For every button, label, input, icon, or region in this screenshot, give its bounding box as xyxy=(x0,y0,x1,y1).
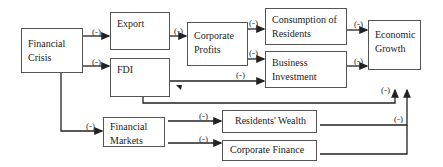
node-financial-crisis: Financial Crisis xyxy=(21,28,83,73)
edge-label-export-profits: (-) xyxy=(174,26,183,36)
edge-label-fdi-investment: (-) xyxy=(236,70,245,80)
node-financial-markets: Financial Markets xyxy=(103,117,165,147)
node-label: Corporate Profits xyxy=(194,30,234,55)
node-corporate-profits: Corporate Profits xyxy=(187,22,248,66)
node-export: Export xyxy=(110,12,170,50)
node-business-investment: Business Investment xyxy=(265,51,347,88)
node-label: Financial Markets xyxy=(110,121,147,146)
edge-label-fdi-growth: (-) xyxy=(381,85,390,95)
edge-label-crisis-markets: (-) xyxy=(86,121,95,131)
node-fdi: FDI xyxy=(110,58,170,97)
edge-label-investment-growth: (-) xyxy=(354,56,363,66)
edge-label-profits-investment: (-) xyxy=(249,48,258,58)
node-label: Consumption of Residents xyxy=(272,14,337,39)
node-label: Financial Crisis xyxy=(28,38,65,63)
node-residents-wealth: Residents' Wealth xyxy=(222,110,317,133)
edge-label-markets-wealth: (-) xyxy=(199,111,208,121)
edge-label-markets-corpfinance: (-) xyxy=(199,134,208,144)
node-label: FDI xyxy=(117,64,133,75)
edge-label-crisis-fdi: (-) xyxy=(92,57,101,67)
node-label: Corporate Finance xyxy=(230,144,304,155)
node-label: Business Investment xyxy=(272,57,316,82)
edge-label-profits-consumption: (-) xyxy=(249,18,258,28)
node-label: Economic Growth xyxy=(375,29,416,54)
edge-label-wealth-growth: (-) xyxy=(394,114,403,124)
node-corporate-finance: Corporate Finance xyxy=(222,140,317,161)
node-economic-growth: Economic Growth xyxy=(368,20,421,70)
node-consumption-of-residents: Consumption of Residents xyxy=(265,8,347,45)
node-label: Export xyxy=(117,18,144,29)
node-label: Residents' Wealth xyxy=(235,115,306,126)
edge-label-crisis-export: (-) xyxy=(92,27,101,37)
transmission-diagram: Financial Crisis Export FDI Corporate Pr… xyxy=(0,0,443,167)
edge-label-consumption-growth: (-) xyxy=(354,19,363,29)
